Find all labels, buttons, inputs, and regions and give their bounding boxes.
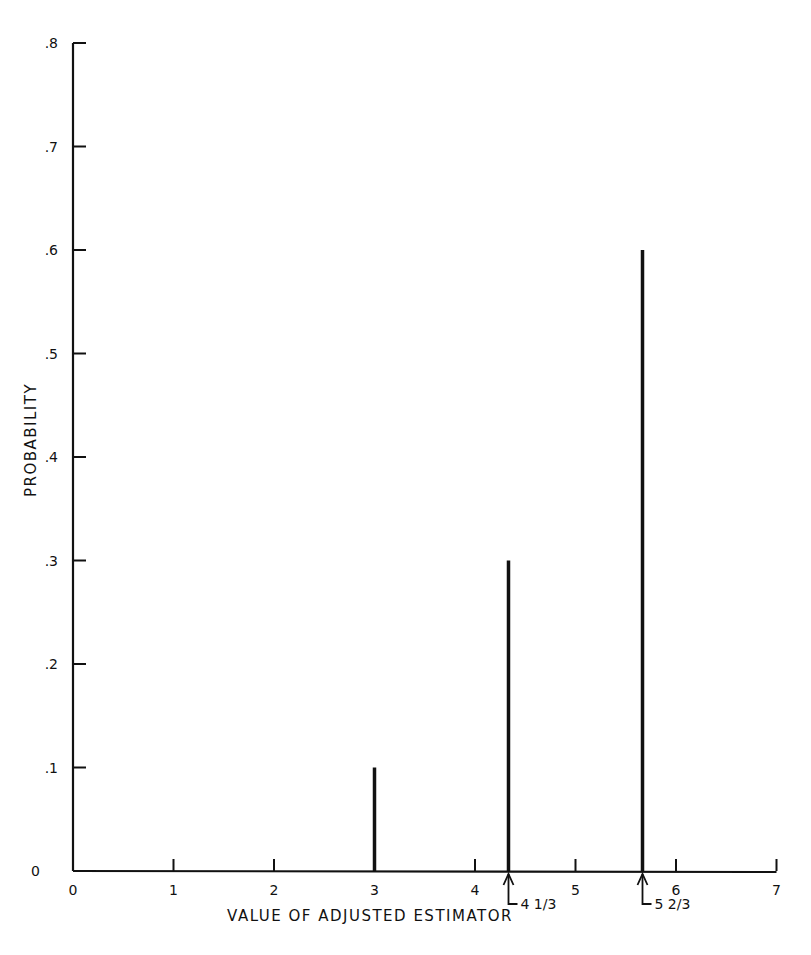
- x-axis: 01234567: [69, 859, 781, 898]
- x-tick-label: 0: [69, 882, 78, 898]
- y-tick-label: .6: [45, 242, 58, 258]
- x-axis-line: [73, 871, 777, 872]
- x-tick-label: 1: [169, 882, 178, 898]
- y-tick-label: .4: [45, 449, 58, 465]
- y-tick-label: .8: [45, 35, 58, 51]
- value-annotation: 5 2/3: [655, 896, 691, 912]
- x-axis-title: VALUE OF ADJUSTED ESTIMATOR: [227, 907, 513, 925]
- x-tick-label: 4: [471, 882, 480, 898]
- x-tick-label: 5: [571, 882, 580, 898]
- x-tick-label: 2: [270, 882, 279, 898]
- y-tick-label: .5: [45, 346, 58, 362]
- y-axis-title: PROBABILITY: [22, 383, 40, 497]
- bars: [375, 250, 643, 871]
- y-tick-label: .2: [45, 656, 58, 672]
- y-tick-label: 0: [31, 863, 40, 879]
- value-annotation: 4 1/3: [520, 896, 556, 912]
- annotations: 4 1/35 2/3: [503, 874, 690, 912]
- probability-stem-chart: 0.1.2.3.4.5.6.7.8 01234567 4 1/35 2/3 PR…: [0, 0, 811, 955]
- y-tick-label: .3: [45, 553, 58, 569]
- x-tick-label: 3: [370, 882, 379, 898]
- y-tick-label: .1: [45, 760, 58, 776]
- y-tick-label: .7: [45, 139, 58, 155]
- x-tick-label: 7: [772, 882, 781, 898]
